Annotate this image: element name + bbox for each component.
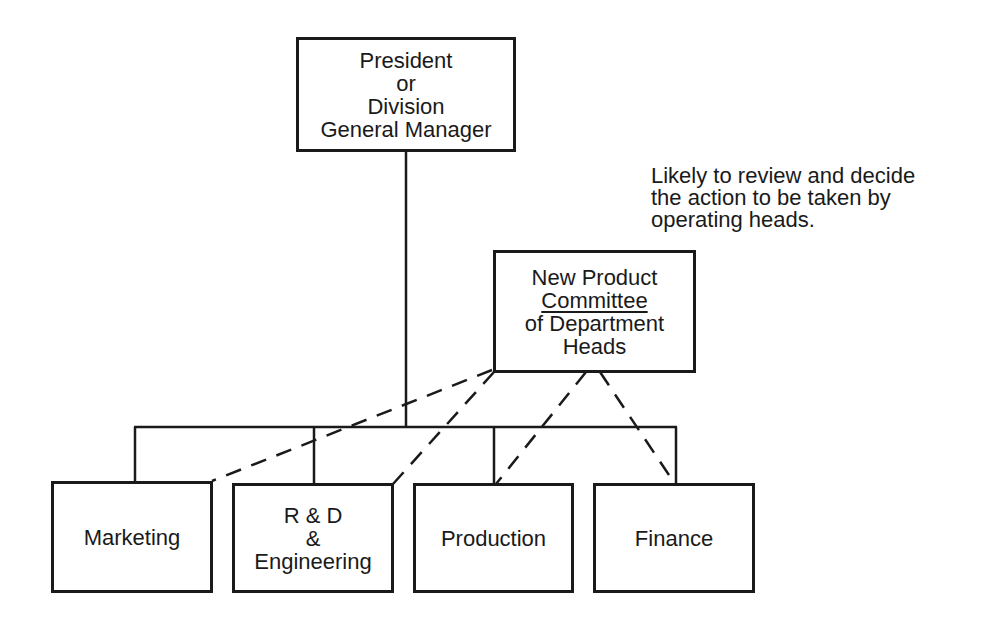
note-line-1: Likely to review and decide [651, 165, 991, 187]
president-line-1: President [360, 49, 453, 72]
committee-line-2: Committee [541, 289, 647, 312]
note-line-2: the action to be taken by [651, 187, 991, 209]
finance-box: Finance [593, 483, 755, 593]
president-line-2: or [396, 72, 416, 95]
finance-label: Finance [635, 527, 713, 550]
production-box: Production [413, 483, 574, 593]
rnd-engineering-box: R & D & Engineering [232, 483, 394, 593]
committee-line-4: Heads [563, 335, 627, 358]
president-line-3: Division [367, 95, 444, 118]
marketing-box: Marketing [51, 481, 213, 593]
rnd-line-1: R & D [284, 504, 343, 527]
committee-line-3: of Department [525, 312, 664, 335]
production-label: Production [441, 527, 546, 550]
note-line-3: operating heads. [651, 209, 991, 231]
committee-line-1: New Product [532, 266, 658, 289]
president-line-4: General Manager [320, 118, 491, 141]
committee-note: Likely to review and decide the action t… [651, 165, 991, 231]
marketing-label: Marketing [84, 526, 181, 549]
rnd-line-3: Engineering [254, 550, 371, 573]
committee-box: New Product Committee of Department Head… [493, 250, 696, 373]
president-box: President or Division General Manager [296, 37, 516, 152]
rnd-line-2: & [306, 527, 321, 550]
